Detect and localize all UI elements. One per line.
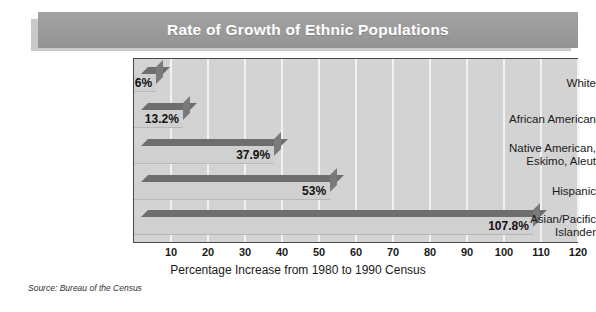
x-tick-label: 40 [267,246,297,258]
x-tick-label: 50 [304,246,334,258]
x-tick-label: 70 [378,246,408,258]
bar-top-face [141,139,288,146]
source-note: Source: Bureau of the Census [28,283,142,293]
x-tick-label: 80 [415,246,445,258]
x-axis-title: Percentage Increase from 1980 to 1990 Ce… [0,263,596,277]
chart-title: Rate of Growth of Ethnic Populations [167,21,449,39]
x-tick-label: 10 [156,246,186,258]
bar-value-label: 53% [302,184,326,198]
x-tick-label: 90 [452,246,482,258]
bar-value-label: 37.9% [236,148,270,162]
bar-front-face [134,182,330,200]
x-tick-label: 100 [489,246,519,258]
x-tick-label: 60 [341,246,371,258]
category-label: African American [466,113,596,126]
category-label: White [466,77,596,90]
x-tick-label: 110 [526,246,556,258]
bar-value-label: 6% [135,76,152,90]
x-tick-label: 20 [193,246,223,258]
bar-top-face [141,175,344,182]
category-label: Hispanic [466,185,596,198]
x-tick-label: 30 [230,246,260,258]
x-tick-label: 120 [563,246,593,258]
chart-title-banner: Rate of Growth of Ethnic Populations [38,12,578,48]
category-label: Native American,Eskimo, Aleut [466,142,596,168]
bar-value-label: 13.2% [145,112,179,126]
category-label: Asian/PacificIslander [466,213,596,239]
